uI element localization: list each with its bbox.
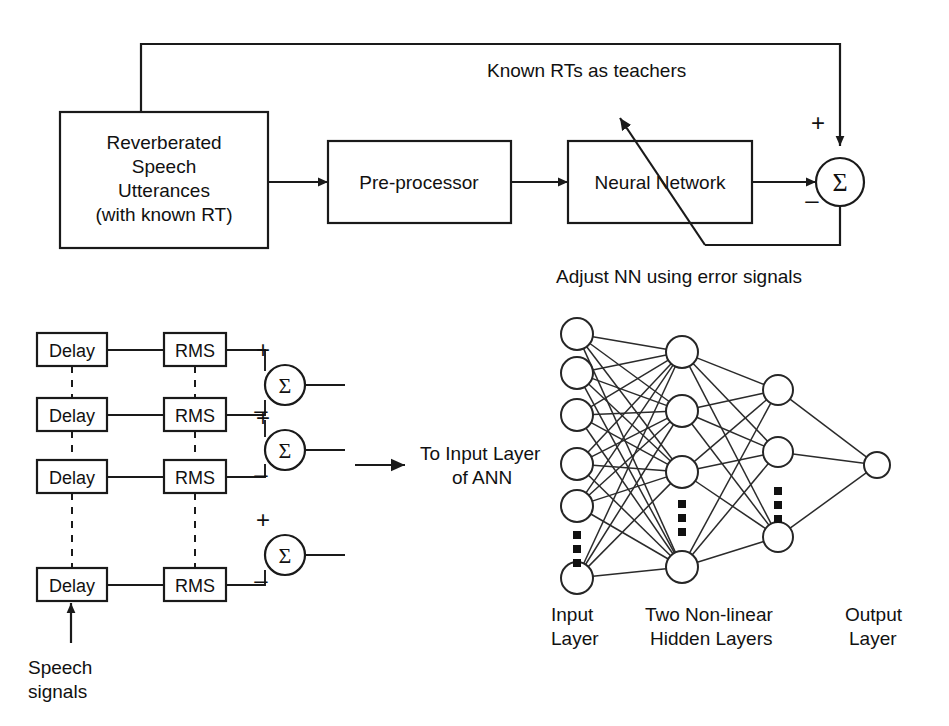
source-block-line-3: Utterances — [118, 180, 210, 201]
ann-ellipsis-hidden1-dot-1 — [678, 500, 686, 508]
ann-node-output-1 — [864, 452, 890, 478]
ann-node-hidden2-2 — [763, 437, 793, 467]
ann-synapse-input-5-hidden1-3 — [593, 569, 666, 577]
ann-synapses — [584, 337, 867, 577]
ann-ellipsis-input-dot-2 — [573, 545, 581, 553]
source-block-line-4: (with known RT) — [96, 204, 233, 225]
ann-hidden-label-line-2: Hidden Layers — [650, 628, 773, 649]
rms-box-2-label: RMS — [175, 406, 215, 426]
source-block-line-1: Reverberated — [106, 132, 221, 153]
summer-node-2-minus-sign: – — [254, 460, 268, 487]
ann-node-hidden2-3 — [763, 522, 793, 552]
ann-input-label-line-1: Input — [551, 604, 594, 625]
ann-synapse-input-3-hidden1-0 — [588, 364, 671, 453]
summing-junction-symbol: Σ — [832, 168, 847, 197]
delay-rms-chain: Delay RMS Delay RMS Delay RMS Delay RMS — [28, 333, 541, 702]
summer-node-2-symbol: Σ — [279, 438, 292, 463]
summing-junction-minus-sign: – — [805, 186, 819, 213]
figure-canvas: Known RTs as teachers Reverberated Speec… — [0, 0, 949, 726]
summer-node-1-plus-sign: + — [256, 336, 270, 363]
ann-node-hidden2-1 — [763, 375, 793, 405]
ann-ellipsis-input-dot-1 — [573, 531, 581, 539]
ann-synapse-input-0-hidden1-1 — [590, 344, 669, 402]
ann-ellipsis-hidden2-dot-1 — [774, 487, 782, 495]
neural-network-block-label: Neural Network — [595, 172, 726, 193]
summer-node-2-plus-sign: + — [256, 404, 270, 431]
speech-input-label-line-1: Speech — [28, 657, 92, 678]
ann-ellipsis-input-dot-3 — [573, 559, 581, 567]
ann-node-hidden1-2 — [666, 395, 698, 427]
ann-node-input-2 — [561, 357, 593, 389]
ann-synapse-hidden2-0-output-0 — [790, 399, 867, 457]
summer-node-3-symbol: Σ — [279, 543, 292, 568]
delay-box-4-label: Delay — [49, 576, 95, 596]
ann-node-input-4 — [561, 448, 593, 480]
ann-synapse-hidden1-3-hidden2-0 — [690, 403, 771, 553]
ann-synapse-hidden1-0-hidden2-2 — [689, 366, 771, 524]
ann-output-label-line-1: Output — [845, 604, 903, 625]
ann-node-hidden1-1 — [666, 336, 698, 368]
to-ann-label-line-1: To Input Layer — [420, 443, 541, 464]
ann-synapse-hidden1-2-hidden2-1 — [698, 455, 764, 469]
ann-synapse-input-0-hidden1-3 — [584, 349, 676, 553]
ann-synapse-hidden2-1-output-0 — [793, 454, 864, 463]
ann-node-hidden1-4 — [666, 551, 698, 583]
summer-node-1-symbol: Σ — [279, 373, 292, 398]
ann-ellipsis-hidden1-dot-2 — [678, 514, 686, 522]
top-block-diagram: Known RTs as teachers Reverberated Speec… — [60, 44, 864, 287]
delay-box-2-label: Delay — [49, 406, 95, 426]
rms-box-1-label: RMS — [175, 341, 215, 361]
ann-node-hidden1-3 — [666, 456, 698, 488]
ann-synapse-hidden1-0-hidden2-0 — [697, 358, 764, 385]
ann-input-label-line-2: Layer — [551, 628, 599, 649]
speech-input-label-line-2: signals — [28, 681, 87, 702]
to-ann-label-line-2: of ANN — [452, 467, 512, 488]
ann-synapse-input-2-hidden1-1 — [593, 412, 666, 415]
ann-ellipsis-hidden2-dot-3 — [774, 515, 782, 523]
ann-synapse-hidden1-1-hidden2-1 — [697, 417, 765, 446]
ann-synapse-hidden2-2-output-0 — [790, 473, 866, 529]
ann-synapse-hidden1-2-hidden2-2 — [695, 481, 765, 529]
ann-node-input-1 — [561, 318, 593, 350]
summer-node-3-plus-sign: + — [256, 506, 270, 533]
ann-synapse-input-0-hidden1-0 — [593, 337, 666, 350]
teacher-signal-label: Known RTs as teachers — [487, 60, 686, 81]
ann-hidden-label-line-1: Two Non-linear — [645, 604, 773, 625]
ann-synapse-hidden1-3-hidden2-2 — [697, 542, 763, 563]
ann-graph: Input Layer Two Non-linear Hidden Layers… — [551, 318, 903, 649]
rms-box-4-label: RMS — [175, 576, 215, 596]
preprocessor-block-label: Pre-processor — [359, 172, 479, 193]
error-feedback-label: Adjust NN using error signals — [556, 266, 802, 287]
diagram-svg: Known RTs as teachers Reverberated Speec… — [0, 0, 949, 726]
delay-box-3-label: Delay — [49, 468, 95, 488]
rms-box-3-label: RMS — [175, 468, 215, 488]
ann-node-input-5 — [561, 490, 593, 522]
ann-node-input-3 — [561, 399, 593, 431]
ann-ellipsis-hidden1-dot-3 — [678, 528, 686, 536]
summer-node-3-minus-sign: – — [254, 566, 268, 593]
ann-output-label-line-2: Layer — [849, 628, 897, 649]
ann-ellipsis-hidden2-dot-2 — [774, 501, 782, 509]
summing-junction-plus-sign: + — [811, 109, 825, 136]
source-block-line-2: Speech — [132, 156, 196, 177]
delay-box-1-label: Delay — [49, 341, 95, 361]
